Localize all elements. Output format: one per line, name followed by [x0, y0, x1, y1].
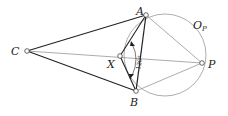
segment-ab [136, 15, 146, 91]
point-a [144, 13, 149, 18]
label-a: A [135, 5, 144, 18]
segment-bp [136, 63, 202, 91]
label-b: B [129, 96, 138, 109]
point-c [25, 49, 30, 54]
angle-label: 120° [134, 55, 143, 70]
point-p [200, 61, 205, 66]
point-x [118, 54, 123, 59]
label-x: X [106, 58, 116, 71]
label-p: P [207, 58, 216, 71]
geometry-diagram: 120° A B C X P OP [0, 0, 228, 116]
label-circle: OP [193, 19, 207, 33]
point-b [134, 89, 139, 94]
label-c: C [11, 45, 20, 58]
circle-subscript: P [201, 25, 207, 33]
circle-name: O [193, 19, 202, 32]
segment-ca [27, 15, 146, 51]
arrow-up-icon [130, 41, 135, 46]
